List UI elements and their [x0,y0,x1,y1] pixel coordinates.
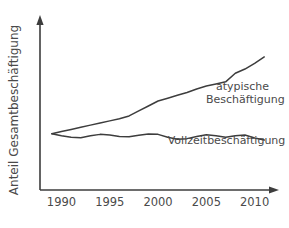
x-tick-label-1995: 1995 [95,195,124,209]
y-axis-arrow-icon [36,15,43,25]
atypische-label-line2: Beschäftigung [206,93,285,106]
chart-container: 19901995200020052010 atypische Beschäfti… [0,0,289,228]
atypische-label-line1: atypische [216,80,269,93]
x-axis-arrow-icon [269,186,279,193]
x-tick-label-2010: 2010 [240,195,269,209]
y-axis-title: Anteil Gesamtbeschäftigung [7,25,21,195]
line-chart: 19901995200020052010 atypische Beschäfti… [0,0,289,228]
x-axis-tick-labels: 19901995200020052010 [47,195,269,209]
x-tick-label-1990: 1990 [47,195,76,209]
series-annotations: atypische Beschäftigung Vollzeitbeschäft… [168,80,286,147]
vollzeit-label: Vollzeitbeschäftigung [168,134,286,147]
x-tick-label-2000: 2000 [143,195,172,209]
x-tick-label-2005: 2005 [192,195,221,209]
